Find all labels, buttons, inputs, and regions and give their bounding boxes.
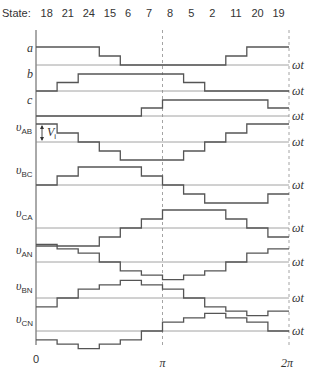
x-tick-label: 2π	[281, 356, 294, 370]
waveform-vBC: υBCωt	[16, 163, 304, 203]
waveform-vCN: υCNωt	[16, 312, 304, 349]
omega-t-label: ωt	[292, 109, 304, 123]
state-number: 7	[146, 7, 152, 19]
waveform-rows: aωtbωtcωtυABωtυBCωtυCAωtυANωtυBNωtυCNωtV…	[16, 41, 304, 349]
state-number: 8	[167, 7, 173, 19]
row-label: c	[27, 93, 33, 107]
waveform-c: cωt	[27, 93, 304, 123]
row-label: b	[27, 67, 33, 81]
state-number: 19	[272, 7, 284, 19]
state-label: State:	[2, 7, 31, 19]
x-tick-label: 0	[33, 353, 39, 365]
omega-t-label: ωt	[292, 324, 304, 338]
row-label: υBN	[16, 279, 33, 295]
state-number: 20	[251, 7, 263, 19]
waveform-vAB: υABωt	[16, 120, 304, 160]
x-tick-label: π	[160, 356, 167, 370]
waveform-trace	[36, 74, 289, 91]
waveform-trace	[36, 100, 289, 116]
state-number: 6	[125, 7, 131, 19]
state-number: 21	[62, 7, 74, 19]
state-number: 15	[104, 7, 116, 19]
waveform-a: aωt	[27, 41, 304, 72]
waveform-vCA: υCAωt	[16, 206, 304, 246]
omega-t-label: ωt	[292, 178, 304, 192]
state-number: 18	[41, 7, 53, 19]
omega-t-label: ωt	[292, 291, 304, 305]
waveform-vBN: υBNωt	[16, 279, 304, 316]
state-number: 11	[230, 7, 241, 19]
omega-t-label: ωt	[292, 84, 304, 98]
row-label: a	[27, 41, 33, 55]
row-label: υAB	[16, 120, 32, 136]
omega-t-label: ωt	[292, 221, 304, 235]
state-header: State:1821241567852112019	[2, 7, 285, 19]
omega-t-label: ωt	[292, 58, 304, 72]
x-tick-labels: 0π2π	[33, 353, 294, 370]
omega-t-label: ωt	[292, 135, 304, 149]
vi-step-annotation: Vi	[40, 125, 56, 141]
state-number: 5	[188, 7, 194, 19]
row-label: υBC	[16, 163, 33, 179]
row-label: υCN	[16, 312, 33, 328]
switching-state-waveform-diagram: State:1821241567852112019 aωtbωtcωtυABωt…	[0, 0, 318, 388]
vi-label: Vi	[47, 125, 56, 141]
state-number: 2	[209, 7, 215, 19]
waveform-vAN: υANωt	[16, 243, 304, 280]
row-label: υCA	[16, 206, 33, 222]
omega-t-label: ωt	[292, 255, 304, 269]
waveform-b: bωt	[27, 67, 304, 98]
row-label: υAN	[16, 243, 33, 259]
state-number: 24	[83, 7, 95, 19]
